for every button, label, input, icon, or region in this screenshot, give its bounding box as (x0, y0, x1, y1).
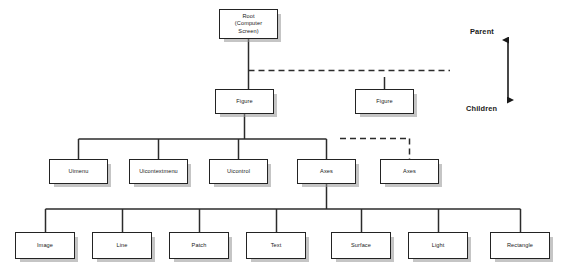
node-uicontrol[interactable]: Uicontrol (209, 159, 268, 184)
node-label-root: Root (Computer Screen) (233, 13, 264, 35)
node-label-axes-2: Axes (401, 168, 418, 175)
node-image[interactable]: Image (15, 232, 75, 259)
node-figure-2[interactable]: Figure (355, 89, 414, 114)
node-label-figure-2: Figure (374, 98, 394, 105)
node-uicontextmenu[interactable]: Uicontextmenu (129, 159, 188, 184)
node-uimenu[interactable]: Uimenu (49, 159, 108, 184)
node-label-image: Image (35, 242, 55, 249)
node-axes-2[interactable]: Axes (380, 159, 439, 184)
node-label-text: Text (269, 242, 284, 249)
node-root[interactable]: Root (Computer Screen) (219, 9, 278, 39)
node-label-axes-1: Axes (318, 168, 335, 175)
parent-child-arrow-icon (497, 32, 519, 108)
diagram-canvas: Root (Computer Screen)FigureFigureUimenu… (0, 0, 573, 279)
node-light[interactable]: Light (408, 232, 468, 259)
node-rectangle[interactable]: Rectangle (490, 232, 550, 259)
node-label-figure-1: Figure (234, 98, 254, 105)
node-label-uimenu: Uimenu (67, 168, 91, 175)
node-label-uicontextmenu: Uicontextmenu (137, 168, 180, 175)
node-surface[interactable]: Surface (331, 232, 391, 259)
node-text[interactable]: Text (246, 232, 306, 259)
legend-parent-label: Parent (470, 27, 494, 36)
node-label-light: Light (430, 242, 447, 249)
node-label-patch: Patch (190, 242, 209, 249)
node-axes-1[interactable]: Axes (297, 159, 356, 184)
node-patch[interactable]: Patch (169, 232, 229, 259)
node-label-rectangle: Rectangle (505, 242, 535, 249)
node-label-surface: Surface (349, 242, 373, 249)
legend-children-label: Children (466, 104, 497, 113)
node-label-line: Line (115, 242, 130, 249)
node-figure-1[interactable]: Figure (215, 89, 274, 114)
node-line[interactable]: Line (92, 232, 152, 259)
node-label-uicontrol: Uicontrol (225, 168, 252, 175)
